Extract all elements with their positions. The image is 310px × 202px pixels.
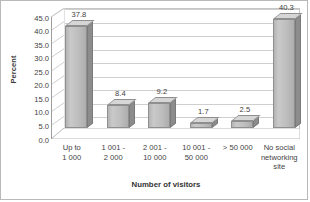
bar-side-face <box>87 21 93 128</box>
y-axis-title: Percent <box>9 40 18 100</box>
bar-slot: 2.5 <box>224 6 266 128</box>
bar-front-face <box>231 121 253 128</box>
bar-value-label: 2.5 <box>224 105 266 114</box>
bar-slot: 9.2 <box>141 6 183 128</box>
bar-value-label: 9.2 <box>141 87 183 96</box>
y-axis-tick-label: 25.0 <box>21 67 49 76</box>
bar[interactable]: 1.7 <box>190 123 212 128</box>
x-axis-category-labels: Up to1 0001 001 -2 0002 001 -10 00010 00… <box>51 143 300 179</box>
y-axis-tick-label: 0.0 <box>21 135 49 144</box>
bar-slot: 8.4 <box>100 6 142 128</box>
plot-area: 37.88.49.21.72.540.3 <box>51 8 300 139</box>
bar-front-face <box>107 105 129 128</box>
bar-slot: 37.8 <box>58 6 100 128</box>
x-axis-title: Number of visitors <box>41 180 291 189</box>
y-axis-tick-label: 35.0 <box>21 40 49 49</box>
y-axis-tick-label: 45.0 <box>21 13 49 22</box>
bar-side-face <box>170 98 176 128</box>
y-axis-tick-label: 20.0 <box>21 81 49 90</box>
bar-value-label: 8.4 <box>100 89 142 98</box>
x-axis-category-label: Up to1 000 <box>48 143 95 162</box>
x-axis-category-label: 1 001 -2 000 <box>90 143 137 162</box>
x-axis-category-label: > 50 000 <box>214 143 261 153</box>
bar-side-face <box>295 14 301 128</box>
bar-series: 37.88.49.21.72.540.3 <box>51 8 300 139</box>
x-axis-category-label: 10 001 -50 000 <box>173 143 220 162</box>
bar-side-face <box>129 101 135 128</box>
x-axis-category-label: 2 001 -10 000 <box>131 143 178 162</box>
bar-slot: 1.7 <box>183 6 225 128</box>
bar-value-label: 40.3 <box>266 3 308 12</box>
y-axis-tick-label: 10.0 <box>21 108 49 117</box>
y-axis-tick-labels: 45.040.035.030.025.020.015.010.05.00.0 <box>21 8 49 139</box>
bar[interactable]: 9.2 <box>148 103 170 128</box>
bar[interactable]: 37.8 <box>65 26 87 128</box>
bar-front-face <box>190 123 212 128</box>
bar-front-face <box>65 26 87 128</box>
y-axis-tick-label: 40.0 <box>21 27 49 36</box>
bar[interactable]: 40.3 <box>273 19 295 128</box>
x-axis-category-label: No socialnetworkingsite <box>256 143 303 172</box>
chart-container: Percent 45.040.035.030.025.020.015.010.0… <box>0 0 308 200</box>
bar-slot: 40.3 <box>266 6 308 128</box>
bar[interactable]: 8.4 <box>107 105 129 128</box>
bar-value-label: 1.7 <box>183 107 225 116</box>
bar-value-label: 37.8 <box>58 10 100 19</box>
y-axis-tick-label: 5.0 <box>21 121 49 130</box>
y-axis-tick-label: 30.0 <box>21 54 49 63</box>
bar-front-face <box>273 19 295 128</box>
bar[interactable]: 2.5 <box>231 121 253 128</box>
y-axis-tick-label: 15.0 <box>21 94 49 103</box>
bar-front-face <box>148 103 170 128</box>
